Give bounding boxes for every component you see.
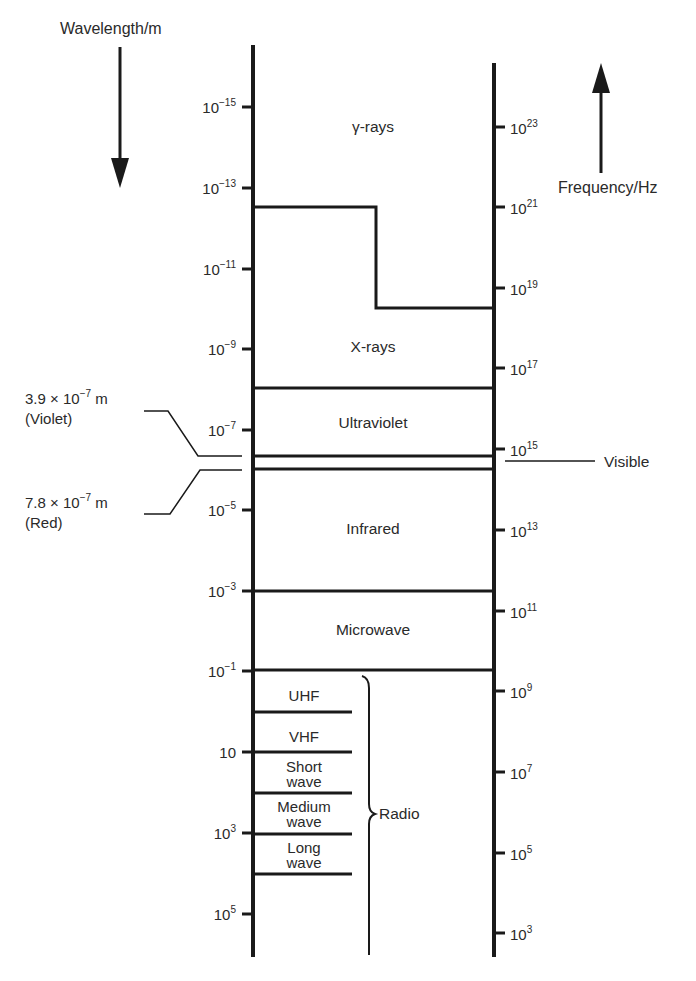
band-labels: γ-rays X-rays Ultraviolet Infrared Micro… bbox=[336, 118, 410, 638]
svg-text:1011: 1011 bbox=[510, 602, 538, 621]
red-color-label: (Red) bbox=[25, 514, 63, 531]
wavelength-tick-labels: 10−15 10−13 10−11 10−9 10−7 10−5 10−3 10… bbox=[202, 97, 236, 923]
gamma-xray-step-boundary bbox=[253, 207, 494, 308]
radio-label: Radio bbox=[379, 805, 420, 822]
red-wavelength-label: 7.8 × 10−7 m bbox=[25, 492, 108, 511]
svg-text:103: 103 bbox=[510, 924, 533, 943]
svg-text:105: 105 bbox=[214, 904, 237, 923]
violet-leader-line bbox=[144, 411, 242, 456]
band-label-gamma: γ-rays bbox=[352, 118, 394, 135]
arrow-down-icon bbox=[111, 47, 129, 188]
svg-text:1013: 1013 bbox=[510, 521, 538, 540]
svg-text:10−11: 10−11 bbox=[203, 259, 236, 278]
svg-text:10−15: 10−15 bbox=[202, 97, 236, 116]
radio-label-vhf: VHF bbox=[289, 728, 319, 745]
svg-text:10−7: 10−7 bbox=[208, 420, 237, 439]
svg-text:1019: 1019 bbox=[510, 279, 538, 298]
svg-text:105: 105 bbox=[510, 844, 533, 863]
violet-wavelength-label: 3.9 × 10−7 m bbox=[25, 388, 108, 407]
band-label-microwave: Microwave bbox=[336, 621, 410, 638]
visible-label: Visible bbox=[604, 453, 649, 470]
svg-text:1023: 1023 bbox=[510, 118, 538, 137]
svg-text:wave: wave bbox=[285, 813, 321, 830]
svg-text:10−9: 10−9 bbox=[208, 339, 237, 358]
svg-text:10: 10 bbox=[219, 744, 236, 761]
svg-text:107: 107 bbox=[510, 763, 533, 782]
radio-sub-band-labels: UHF VHF Short wave Medium wave Long wave bbox=[277, 687, 330, 871]
svg-text:wave: wave bbox=[285, 773, 321, 790]
svg-text:1021: 1021 bbox=[510, 198, 538, 217]
band-boundaries bbox=[253, 207, 494, 670]
svg-text:10−3: 10−3 bbox=[208, 581, 237, 600]
svg-text:10−13: 10−13 bbox=[202, 178, 236, 197]
wavelength-axis-label: Wavelength/m bbox=[60, 20, 162, 37]
radio-label-uhf: UHF bbox=[289, 687, 320, 704]
em-spectrum-diagram: Wavelength/m Frequency/Hz 10−15 10−13 10… bbox=[0, 0, 696, 981]
band-label-infrared: Infrared bbox=[346, 520, 399, 537]
svg-text:10−5: 10−5 bbox=[208, 500, 237, 519]
svg-text:1017: 1017 bbox=[510, 359, 538, 378]
svg-text:109: 109 bbox=[510, 682, 533, 701]
violet-color-label: (Violet) bbox=[25, 410, 72, 427]
frequency-axis-label: Frequency/Hz bbox=[558, 179, 658, 196]
svg-text:103: 103 bbox=[214, 823, 237, 842]
svg-text:1015: 1015 bbox=[510, 440, 538, 459]
band-label-ultraviolet: Ultraviolet bbox=[339, 414, 409, 431]
svg-text:wave: wave bbox=[285, 854, 321, 871]
radio-brace-icon bbox=[362, 676, 375, 955]
arrow-up-icon bbox=[592, 63, 610, 173]
frequency-tick-labels: 1023 1021 1019 1017 1015 1013 1011 109 1… bbox=[510, 118, 538, 943]
band-label-xray: X-rays bbox=[351, 338, 396, 355]
svg-text:10−1: 10−1 bbox=[208, 661, 237, 680]
